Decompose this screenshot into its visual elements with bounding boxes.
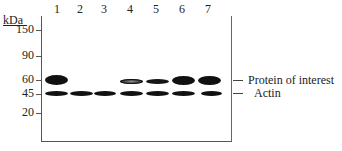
protein-of-interest-band-lane-5 [146,79,169,84]
annotation-line [233,93,243,94]
actin-band-lane-3 [94,91,116,96]
lane-label: 5 [150,2,162,17]
annotation-line [233,80,243,81]
lane-label: 7 [202,2,214,17]
actin-band-lane-6 [172,91,195,96]
marker-label: 20 [1,105,34,120]
actin-band-lane-7 [201,91,222,96]
marker-label: 90 [1,48,34,63]
actin-band-lane-2 [70,91,93,96]
lane-label: 4 [124,2,136,17]
marker-label: 60 [1,72,34,87]
actin-band-lane-1 [45,91,68,96]
protein-of-interest-band-lane-7 [198,76,221,85]
annotation-label: Actin [254,86,281,101]
protein-of-interest-band-lane-6 [172,76,195,85]
actin-band-lane-5 [146,91,169,96]
lane-label: 6 [176,2,188,17]
actin-band-lane-4 [120,91,143,96]
lane-label: 2 [74,2,86,17]
protein-of-interest-band-lane-1 [45,75,68,85]
marker-label: 45 [1,86,34,101]
marker-label: 150 [1,22,34,37]
lane-label: 1 [51,2,63,17]
protein-of-interest-band-lane-4 [120,79,143,84]
lane-label: 3 [98,2,110,17]
